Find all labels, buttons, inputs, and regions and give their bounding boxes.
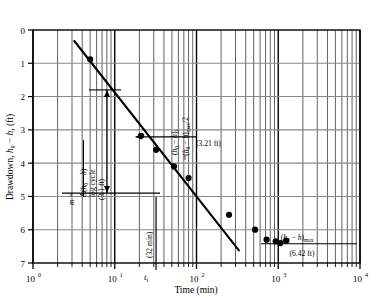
data-point (153, 147, 159, 153)
y-tick-label: 6 (21, 225, 26, 235)
y-tick-label: 2 (21, 92, 26, 102)
delta-value-label: (3.1 ft) (97, 178, 106, 200)
x-tick-label-exponent: 0 (38, 272, 41, 278)
x-tick-label-base: 10 (26, 274, 36, 284)
chart-root: 100101102103104 01234567 m = Δ(h0 − h) l… (0, 0, 384, 298)
label-part: Drawdown, (5, 153, 15, 200)
y-axis-title: Drawdown, h0 − h, (ft) (5, 114, 16, 200)
label-part: max (185, 123, 191, 133)
data-point (185, 175, 191, 181)
x-axis-title: Time (min) (174, 285, 217, 296)
ti-value-label: (32 min) (145, 231, 154, 258)
x-tick-label-exponent: 4 (365, 272, 368, 278)
x-tick-label-exponent: 2 (202, 272, 205, 278)
half-max-value-label: (3.21 ft) (196, 139, 221, 148)
y-tick-label: 0 (21, 26, 26, 36)
x-tick-label-exponent: 3 (283, 272, 286, 278)
x-tick-label-base: 10 (108, 274, 118, 284)
label-part: /2 (181, 117, 190, 123)
y-tick-label: 3 (21, 125, 26, 135)
data-point (226, 212, 232, 218)
label-part: max (304, 237, 314, 243)
x-tick-label-base: 10 (190, 274, 200, 284)
label-part: − (181, 139, 190, 147)
data-point (171, 163, 177, 169)
half-max-label-a: (h0 − h)i (170, 130, 180, 155)
y-tick-label: 5 (21, 192, 26, 202)
half-max-label-b: =(h0 − h)max/2 (181, 117, 191, 160)
slope-lhs-label: m = (67, 192, 76, 205)
data-point (252, 227, 258, 233)
data-point (263, 237, 269, 243)
x-tick-label-exponent: 1 (120, 272, 123, 278)
label-part: , (ft) (5, 114, 16, 131)
data-point (87, 56, 93, 62)
label-part: − (170, 138, 179, 146)
y-tick-label: 1 (21, 59, 26, 69)
label-part: − (5, 135, 15, 145)
y-tick-label: 7 (21, 259, 26, 269)
max-drawdown-value-label: (6.42 ft) (290, 249, 315, 258)
drawdown-vs-time-chart: 100101102103104 01234567 m = Δ(h0 − h) l… (0, 0, 384, 298)
x-tick-label-base: 10 (271, 274, 281, 284)
label-part: − (290, 233, 298, 242)
x-tick-label-base: 10 (353, 274, 363, 284)
y-tick-label: 4 (21, 159, 26, 169)
